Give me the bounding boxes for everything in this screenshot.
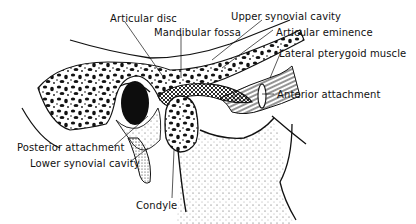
label-lower-synovial-cavity: Lower synovial cavity bbox=[30, 158, 140, 169]
label-lateral-pterygoid-muscle: Lateral pterygoid muscle bbox=[279, 48, 406, 59]
label-mandibular-fossa: Mandibular fossa bbox=[154, 27, 241, 38]
label-anterior-attachment: Anterior attachment bbox=[277, 89, 381, 100]
label-articular-eminence: Articular eminence bbox=[276, 27, 373, 38]
label-condyle: Condyle bbox=[136, 200, 177, 211]
condyle bbox=[165, 96, 198, 152]
label-articular-disc: Articular disc bbox=[110, 13, 177, 24]
label-upper-synovial-cavity: Upper synovial cavity bbox=[231, 11, 341, 22]
tmj-diagram: Articular disc Mandibular fossa Upper sy… bbox=[0, 0, 416, 224]
label-posterior-attachment: Posterior attachment bbox=[17, 142, 124, 153]
anterior-attachment-oval bbox=[258, 84, 266, 108]
